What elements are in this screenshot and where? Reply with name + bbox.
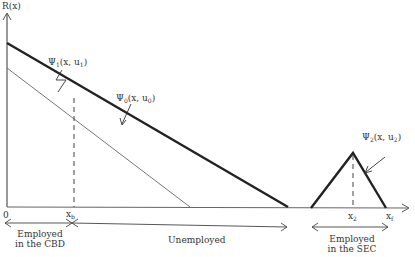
sec-range-arrow [312, 223, 388, 231]
psi2-label: Ψ2(x, u2) [362, 132, 401, 145]
psi2-pointer-icon [366, 157, 385, 172]
sec-region-label: Employed in the SEC [320, 234, 384, 254]
origin-label: 0 [3, 210, 9, 220]
axes [3, 13, 409, 212]
unemployed-region-label: Unemployed [168, 235, 225, 245]
psi1-label: Ψ1(x, u1) [48, 57, 87, 70]
psi1-bid-rent-line [7, 68, 190, 207]
xf-tick-label: xf [386, 211, 393, 224]
psi2-bid-rent-triangle [311, 153, 386, 208]
bid-rent-diagram: R(x) 0 Ψ1(x, u1) Ψ0(x, u0) Ψ2(x, u2) xb … [0, 0, 415, 257]
cbd-region-label: Employed in the CBD [10, 229, 70, 249]
xb-tick-label: xb [66, 209, 75, 222]
cbd-range-arrow [5, 219, 72, 227]
y-axis-label: R(x) [2, 1, 21, 11]
psi0-label: Ψ0(x, u0) [116, 93, 155, 106]
unemployed-range-arrow [72, 219, 287, 231]
x2-tick-label: x2 [348, 211, 357, 224]
